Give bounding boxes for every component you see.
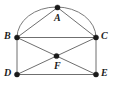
vertex-dot-a: [55, 5, 60, 10]
vertex-dot-c: [93, 35, 98, 40]
vertex-dot-e: [93, 72, 98, 77]
segment-ab: [17, 8, 58, 38]
vertex-label-f: F: [54, 61, 61, 71]
vertex-label-b: B: [4, 31, 11, 41]
vertex-dot-f: [54, 53, 59, 58]
geometry-figure: A B C D E F: [0, 0, 114, 92]
vertex-label-e: E: [101, 68, 108, 78]
vertex-label-d: D: [4, 68, 11, 78]
vertex-dot-d: [14, 72, 19, 77]
vertex-dot-b: [14, 35, 19, 40]
segment-ac: [58, 8, 97, 38]
vertex-label-c: C: [101, 31, 108, 41]
vertex-label-a: A: [54, 13, 61, 23]
